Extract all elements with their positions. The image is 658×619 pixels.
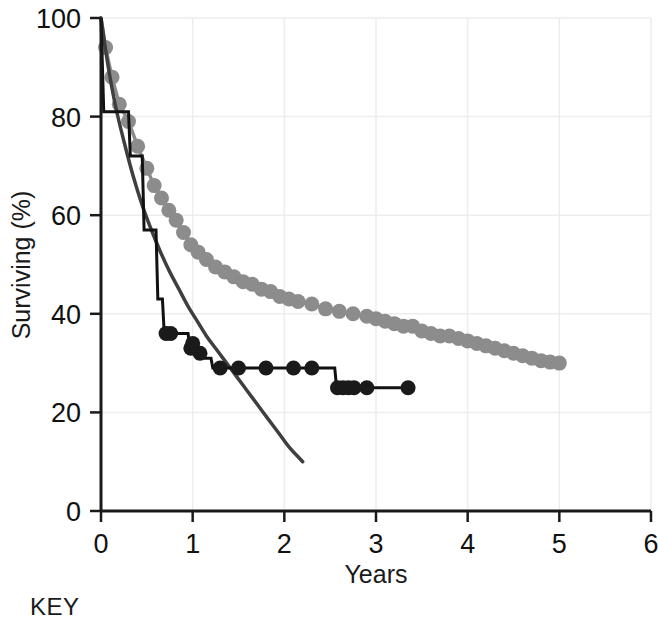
- censor-marker: [304, 361, 319, 376]
- x-tick-label: 5: [552, 529, 567, 559]
- y-tick-label: 20: [51, 398, 81, 428]
- x-axis-label: Years: [344, 560, 407, 588]
- censor-marker: [347, 380, 362, 395]
- censor-marker: [286, 361, 301, 376]
- censor-marker: [231, 361, 246, 376]
- censor-marker: [193, 346, 208, 361]
- data-point-marker: [318, 301, 333, 316]
- x-tick-label: 3: [368, 529, 383, 559]
- data-point-marker: [291, 294, 306, 309]
- x-tick-label: 6: [643, 529, 658, 559]
- data-point-marker: [304, 296, 319, 311]
- x-tick-label: 1: [185, 529, 200, 559]
- data-point-marker: [346, 306, 361, 321]
- y-tick-label: 80: [51, 103, 81, 133]
- x-tick-label: 0: [93, 529, 108, 559]
- y-tick-label: 100: [36, 4, 81, 34]
- data-point-marker: [552, 356, 567, 371]
- censor-marker: [163, 326, 178, 341]
- censor-marker: [401, 380, 416, 395]
- key-label: KEY: [30, 593, 80, 619]
- censor-marker: [359, 380, 374, 395]
- y-tick-label: 0: [66, 497, 81, 527]
- x-tick-label: 2: [277, 529, 292, 559]
- y-tick-label: 40: [51, 300, 81, 330]
- data-point-marker: [332, 304, 347, 319]
- censor-marker: [259, 361, 274, 376]
- data-point-marker: [130, 139, 145, 154]
- y-tick-label: 60: [51, 201, 81, 231]
- y-axis-label: Surviving (%): [7, 191, 35, 340]
- x-tick-label: 4: [460, 529, 475, 559]
- survival-curve-chart: 0123456 020406080100 Years Surviving (%)…: [0, 0, 658, 619]
- censor-marker: [213, 361, 228, 376]
- survival-chart-figure: 0123456 020406080100 Years Surviving (%)…: [0, 0, 658, 619]
